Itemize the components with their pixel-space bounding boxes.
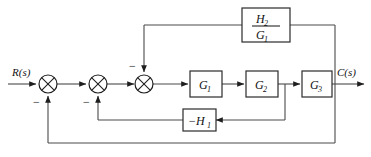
diagram-canvas: − − − G 1 G 2 G 3 xyxy=(0,0,371,157)
summing-junction-1[interactable] xyxy=(39,75,57,93)
sum1-sign: − xyxy=(33,95,40,109)
output-label: C(s) xyxy=(337,66,356,79)
block-g3[interactable]: G 3 xyxy=(302,71,332,97)
block-h1-label: −H xyxy=(188,114,206,128)
block-g2-subscript: 2 xyxy=(263,85,267,94)
summing-junction-2[interactable] xyxy=(89,75,107,93)
input-label: R(s) xyxy=(11,66,31,79)
block-g1[interactable]: G 1 xyxy=(190,71,222,97)
block-h1-subscript: 1 xyxy=(207,121,211,130)
block-g1-subscript: 1 xyxy=(207,85,211,94)
block-h2-over-g1[interactable]: H 2 G 1 xyxy=(242,8,290,44)
sum3-sign: − xyxy=(129,59,136,73)
block-g3-subscript: 3 xyxy=(317,85,322,94)
block-diagram: − − − G 1 G 2 G 3 xyxy=(0,0,371,157)
summing-junction-3[interactable] xyxy=(135,75,153,93)
block-g2[interactable]: G 2 xyxy=(246,71,278,97)
block-h2-numerator-subscript: 2 xyxy=(264,19,268,28)
sum2-sign: − xyxy=(83,95,90,109)
block-h1[interactable]: −H 1 xyxy=(183,109,216,131)
block-g1-denominator-subscript: 1 xyxy=(264,35,268,44)
